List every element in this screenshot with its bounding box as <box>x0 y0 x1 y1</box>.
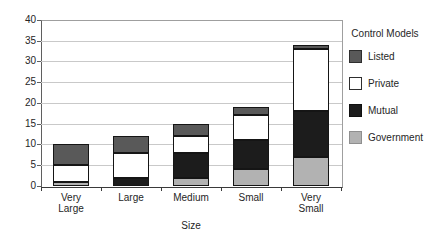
x-category-label-line: Very <box>41 192 101 203</box>
x-category-label: Small <box>221 192 281 203</box>
y-axis-tick <box>37 124 41 125</box>
bar-segment-mutual <box>233 140 269 169</box>
x-category-label-line: Small <box>281 203 341 214</box>
legend-label: Government <box>368 132 423 144</box>
y-axis-tick <box>37 61 41 62</box>
x-category-label-line: Very <box>281 192 341 203</box>
gridline <box>41 41 342 42</box>
x-axis-tick <box>101 187 102 191</box>
bar-segment-listed <box>233 107 269 115</box>
y-axis-label: 20 <box>8 97 36 109</box>
y-axis-tick <box>37 103 41 104</box>
y-axis-label: 0 <box>8 180 36 192</box>
bar-segment-private <box>173 136 209 153</box>
y-axis-label: 10 <box>8 138 36 150</box>
bar-segment-government <box>173 178 209 186</box>
legend-title: Control Models <box>347 28 423 39</box>
bar-segment-government <box>293 157 329 186</box>
bar-segment-private <box>233 115 269 140</box>
bar-segment-listed <box>53 144 89 165</box>
x-axis-tick <box>41 187 42 191</box>
y-axis-label: 25 <box>8 76 36 88</box>
legend-label: Private <box>368 78 399 90</box>
y-axis-label: 5 <box>8 159 36 171</box>
bar-segment-private <box>53 165 89 182</box>
x-category-label: VerySmall <box>281 192 341 214</box>
legend-swatch-government <box>349 131 362 144</box>
bar-segment-private <box>113 153 149 178</box>
x-category-label: Medium <box>161 192 221 203</box>
y-axis-label: 30 <box>8 55 36 67</box>
bar-segment-listed <box>173 124 209 136</box>
legend-swatch-listed <box>349 50 362 63</box>
x-category-label: Large <box>101 192 161 203</box>
x-axis-tick <box>281 187 282 191</box>
legend-swatch-private <box>349 77 362 90</box>
legend-label: Mutual <box>368 105 398 117</box>
y-axis-tick <box>37 82 41 83</box>
bar-segment-private <box>293 49 329 111</box>
bar-segment-government <box>53 182 89 186</box>
legend-swatch-mutual <box>349 104 362 117</box>
bar-segment-government <box>233 169 269 186</box>
x-category-label-line: Small <box>221 192 281 203</box>
x-axis-tick <box>341 187 342 191</box>
x-axis-tick <box>161 187 162 191</box>
y-axis-tick <box>37 41 41 42</box>
y-axis-label: 35 <box>8 35 36 47</box>
y-axis-tick <box>37 144 41 145</box>
x-category-label: VeryLarge <box>41 192 101 214</box>
bar-segment-mutual <box>293 111 329 157</box>
y-axis-tick <box>37 20 41 21</box>
x-category-label-line: Large <box>41 203 101 214</box>
y-axis-tick <box>37 165 41 166</box>
y-axis-label: 15 <box>8 118 36 130</box>
x-axis-tick <box>221 187 222 191</box>
x-category-label-line: Large <box>101 192 161 203</box>
y-axis-label: 40 <box>8 14 36 26</box>
bar-segment-listed <box>113 136 149 153</box>
x-axis-title: Size <box>41 220 341 231</box>
stacked-bar-chart: Size Control Models ListedPrivateMutualG… <box>0 0 437 240</box>
bar-segment-mutual <box>113 178 149 186</box>
bar-segment-mutual <box>173 153 209 178</box>
legend-label: Listed <box>368 51 395 63</box>
bar-segment-listed <box>293 45 329 49</box>
x-category-label-line: Medium <box>161 192 221 203</box>
